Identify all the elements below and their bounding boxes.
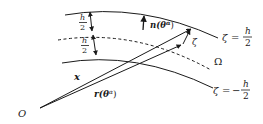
x-vector-label: x xyxy=(73,71,81,82)
r-vector-label: r(θα) xyxy=(94,88,117,99)
thickness-lower-num: h xyxy=(82,36,87,45)
position-vector-r xyxy=(40,45,181,108)
thickness-lower-den: 2 xyxy=(82,46,87,55)
bottom-surface-zeta: ζ xyxy=(213,85,219,96)
bottom-surface-eq: = xyxy=(222,85,230,96)
thickness-upper-den: 2 xyxy=(80,23,85,32)
thickness-arrow-upper xyxy=(90,12,92,31)
top-surface-zeta: ζ xyxy=(222,32,228,43)
bottom-surface-num: h xyxy=(243,79,249,89)
top-surface-eq: = xyxy=(231,32,239,43)
normal-vector-arrow xyxy=(143,16,144,30)
bottom-surface-sign: − xyxy=(232,85,240,96)
shell-geometry-diagram: h 2 h 2 n(θα) ζ x r(θα) O ζ = h 2 Ω ζ = … xyxy=(0,0,263,124)
bottom-surface-den: 2 xyxy=(243,91,249,101)
zeta-vector-label: ζ xyxy=(192,37,198,47)
top-surface-curve xyxy=(65,12,218,38)
thickness-arrow-lower xyxy=(93,35,96,55)
top-surface-num: h xyxy=(245,26,251,36)
thickness-upper-num: h xyxy=(80,13,85,22)
mid-surface-curve xyxy=(58,37,211,70)
normal-vector-label: n(θα) xyxy=(150,19,174,30)
origin-label: O xyxy=(18,108,26,119)
top-surface-den: 2 xyxy=(245,38,251,48)
mid-surface-omega: Ω xyxy=(214,56,222,67)
